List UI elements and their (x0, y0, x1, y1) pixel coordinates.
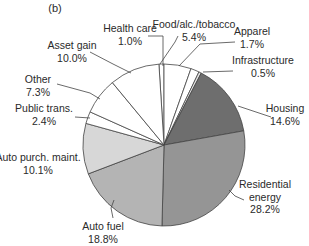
slice-name: Infrastructure (232, 54, 294, 66)
slice-value: 5.4% (182, 31, 206, 43)
panel-label: (b) (48, 2, 61, 14)
leader-line (179, 42, 235, 66)
slice-name: Health care (103, 22, 157, 34)
slice-name: Apparel (234, 25, 270, 37)
slice-name: Auto purch. maint. (0, 151, 81, 163)
slice-name: Auto fuel (82, 220, 123, 232)
slice-label-housing: Housing14.6% (266, 102, 305, 127)
slice-label-apparel: Apparel1.7% (234, 25, 270, 50)
leader-line (57, 84, 100, 99)
slice-value: 0.5% (251, 67, 275, 79)
slice-value: 1.0% (118, 35, 142, 47)
slice-value: 1.7% (240, 38, 264, 50)
leader-line (90, 52, 131, 73)
slice-value: 2.4% (32, 115, 56, 127)
slice-label-health-care: Health care1.0% (103, 22, 157, 47)
slice-label-food-alc-tobacco: Food/alc./tobacco5.4% (153, 18, 236, 43)
slice-label-asset-gain: Asset gain10.0% (47, 39, 96, 64)
slice-label-residential-energy: Residentialenergy28.2% (239, 178, 291, 215)
pie-chart: Health care1.0%Food/alc./tobacco5.4%Appa… (0, 0, 309, 246)
slice-value: 10.0% (57, 52, 87, 64)
slice-label-other: Other7.3% (25, 73, 52, 98)
leader-line (148, 36, 163, 66)
slice-name: Asset gain (47, 39, 96, 51)
pie-slices (83, 64, 245, 226)
slice-value: 28.2% (250, 203, 280, 215)
slice-label-auto-purch-maint: Auto purch. maint.10.1% (0, 151, 81, 176)
slice-name: Residential (239, 178, 291, 190)
slice-name: energy (249, 191, 282, 203)
slice-name: Food/alc./tobacco (153, 18, 236, 30)
leader-line (203, 71, 233, 72)
leader-line (229, 190, 244, 200)
slice-value: 10.1% (23, 164, 53, 176)
slice-label-infrastructure: Infrastructure0.5% (232, 54, 294, 79)
slice-value: 7.3% (26, 86, 50, 98)
slice-value: 14.6% (270, 115, 300, 127)
slice-name: Other (25, 73, 52, 85)
slice-value: 18.8% (88, 233, 118, 245)
slice-name: Public trans. (15, 102, 73, 114)
slice-label-public-trans: Public trans.2.4% (15, 102, 73, 127)
pie-slice-residential-energy (162, 131, 245, 226)
slice-label-auto-fuel: Auto fuel18.8% (82, 220, 123, 245)
slice-name: Housing (266, 102, 305, 114)
